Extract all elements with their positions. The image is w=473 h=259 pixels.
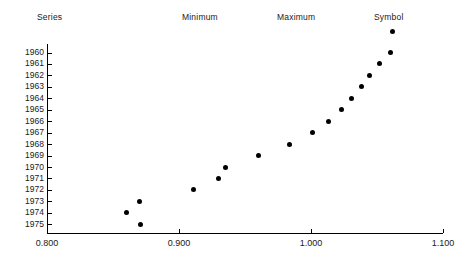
y-axis-tick-label: 1970: [25, 163, 44, 172]
x-axis-tick-label: 0.900: [168, 238, 191, 248]
y-axis-tick-label: 1965: [25, 105, 44, 114]
y-axis-tick-label: 1961: [25, 59, 44, 68]
y-axis-tick-label: 1971: [25, 174, 44, 183]
y-axis-tick: [48, 53, 52, 54]
data-point: [216, 176, 221, 181]
y-axis-tick-label: 1974: [25, 208, 44, 217]
y-axis-tick: [48, 144, 52, 145]
y-axis-tick: [48, 224, 52, 225]
y-axis-tick-label: 1975: [25, 220, 44, 229]
legend-symbol-marker-icon: [390, 29, 395, 34]
y-axis-tick: [48, 133, 52, 134]
x-axis-tick: [179, 229, 180, 233]
y-axis-tick: [48, 75, 52, 76]
y-axis-tick-label: 1966: [25, 117, 44, 126]
column-header-series: Series: [37, 12, 62, 22]
data-point: [377, 61, 382, 66]
y-axis-tick: [48, 121, 52, 122]
data-point: [367, 73, 372, 78]
y-axis-tick: [48, 87, 52, 88]
data-point: [349, 96, 354, 101]
y-axis-tick: [48, 190, 52, 191]
y-axis-tick-label: 1967: [25, 128, 44, 137]
data-point: [138, 222, 143, 227]
x-axis-line: [47, 233, 443, 234]
x-axis-tick-label: 0.800: [36, 238, 59, 248]
y-axis-tick-label: 1963: [25, 82, 44, 91]
scatter-chart: Series Minimum Maximum Symbol 1960196119…: [0, 0, 473, 259]
y-axis-tick: [48, 178, 52, 179]
y-axis-tick-label: 1960: [25, 48, 44, 57]
x-axis-tick: [311, 229, 312, 233]
y-axis-tick: [48, 98, 52, 99]
x-axis-tick: [47, 229, 48, 233]
x-axis-tick-label: 1.100: [432, 238, 455, 248]
x-axis-tick-label: 1.000: [300, 238, 323, 248]
data-point: [339, 107, 344, 112]
column-header-minimum: Minimum: [182, 12, 218, 22]
y-axis-tick-label: 1969: [25, 151, 44, 160]
y-axis-tick: [48, 64, 52, 65]
data-point: [223, 165, 228, 170]
y-axis-tick-label: 1972: [25, 185, 44, 194]
x-axis-tick: [443, 229, 444, 233]
y-axis-tick: [48, 213, 52, 214]
column-header-maximum: Maximum: [277, 12, 315, 22]
data-point: [287, 142, 292, 147]
data-point: [256, 153, 261, 158]
data-point: [388, 50, 393, 55]
y-axis-tick: [48, 156, 52, 157]
y-axis-line: [47, 44, 48, 233]
y-axis-tick-label: 1962: [25, 71, 44, 80]
y-axis-tick-label: 1973: [25, 197, 44, 206]
data-point: [326, 119, 331, 124]
y-axis-tick-label: 1968: [25, 140, 44, 149]
data-point: [124, 210, 129, 215]
data-point: [137, 199, 142, 204]
data-point: [359, 84, 364, 89]
column-header-symbol: Symbol: [374, 12, 404, 22]
y-axis-tick: [48, 110, 52, 111]
data-point: [191, 187, 196, 192]
y-axis-tick: [48, 201, 52, 202]
y-axis-tick-label: 1964: [25, 94, 44, 103]
data-point: [310, 130, 315, 135]
y-axis-tick: [48, 167, 52, 168]
